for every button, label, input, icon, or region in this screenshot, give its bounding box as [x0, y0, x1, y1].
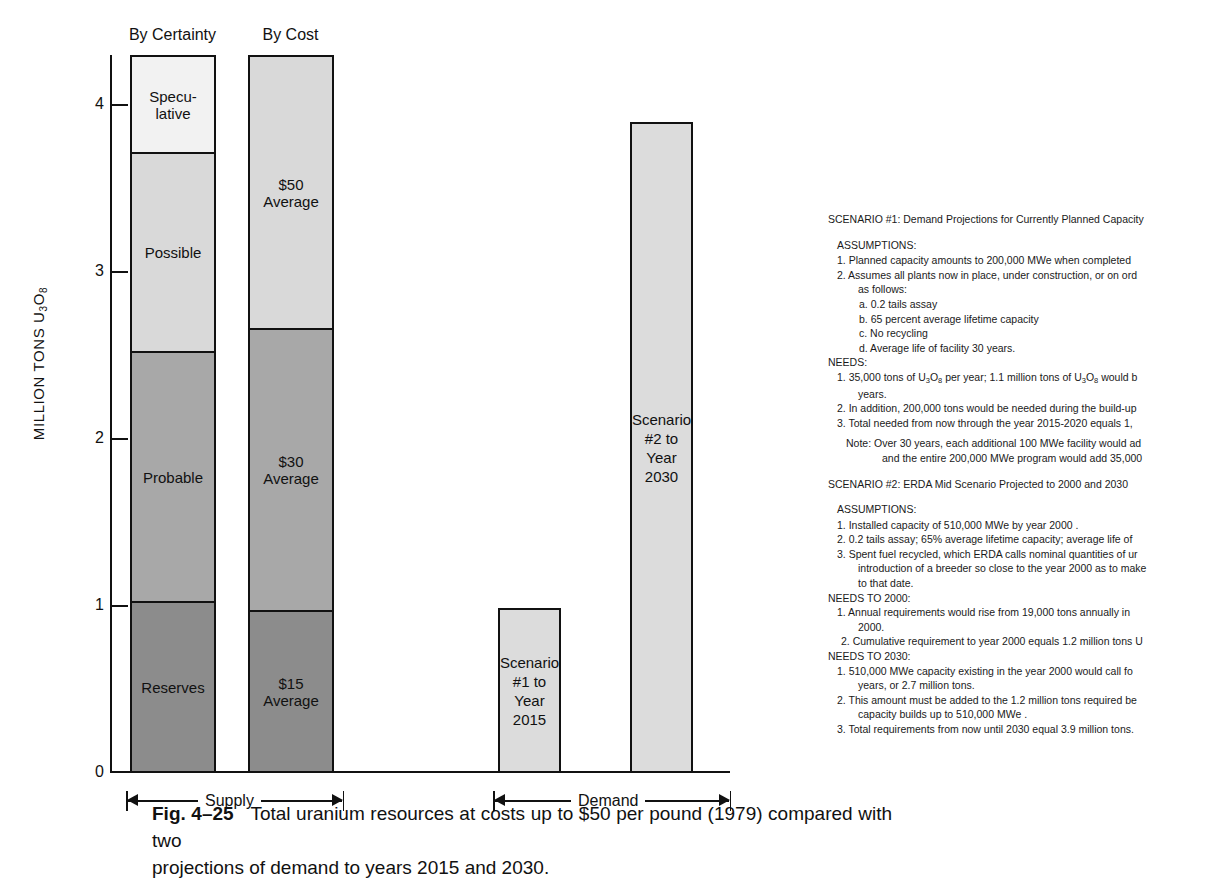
- y-tick-label-4: 4: [76, 96, 104, 112]
- y-tick-label-3: 3: [76, 263, 104, 279]
- bar-segment-cost-15[interactable]: $15 Average: [250, 610, 332, 771]
- y-tick-mark-1: [112, 605, 128, 607]
- scenario-1-assumption-2-cont: as follows:: [828, 282, 1225, 297]
- bar-segment-cost-50-label: $50 Average: [263, 176, 319, 210]
- scenario-1-need-1-cont: years.: [828, 387, 1225, 402]
- scenario-1-assumptions: ASSUMPTIONS:: [828, 238, 1225, 253]
- scenario-2-need-2030-3: 3. Total requirements from now until 203…: [828, 722, 1225, 737]
- bar-segment-speculative-label: Specu- lative: [149, 88, 197, 122]
- scenario-1-need-2: 2. In addition, 200,000 tons would be ne…: [828, 401, 1225, 416]
- scenario-1-needs-header: NEEDS:: [828, 355, 1225, 370]
- bar-segment-speculative[interactable]: Specu- lative: [132, 57, 214, 152]
- y-axis-sub-3: 3: [38, 305, 49, 311]
- scenario-2-assumption-3: 3. Spent fuel recycled, which ERDA calls…: [828, 547, 1225, 562]
- chart-plot-area: MILLION TONS U3O8 4 3 2 1 0 By Certainty…: [0, 0, 800, 800]
- scenario-1-assumption-2a: a. 0.2 tails assay: [828, 297, 1225, 312]
- y-tick-mark-3: [112, 271, 128, 273]
- scenario-2-assumption-3-cont2: to that date.: [828, 576, 1225, 591]
- scenario-2-need-2030-2: 2. This amount must be added to the 1.2 …: [828, 693, 1225, 708]
- scenario-notes-panel: SCENARIO #1: Demand Projections for Curr…: [828, 212, 1225, 737]
- bar-by-certainty[interactable]: Specu- lative Possible Probable Reserves: [130, 55, 216, 773]
- bar-scenario-2[interactable]: Scenario #2 to Year 2030: [630, 122, 693, 773]
- bar-segment-cost-50[interactable]: $50 Average: [250, 57, 332, 328]
- scenario-1-note: Note: Over 30 years, each additional 100…: [828, 436, 1225, 451]
- scenario-2-need-2030-2-cont: capacity builds up to 510,000 MWe .: [828, 707, 1225, 722]
- figure-caption: Fig. 4–25 Total uranium resources at cos…: [152, 800, 1212, 881]
- scenario-2-needs-2000-header: NEEDS TO 2000:: [828, 591, 1225, 606]
- bar-by-cost[interactable]: $50 Average $30 Average $15 Average: [248, 55, 334, 773]
- scenario-1-assumption-2b: b. 65 percent average lifetime capacity: [828, 312, 1225, 327]
- bar-segment-probable[interactable]: Probable: [132, 351, 214, 601]
- bar-segment-possible-label: Possible: [145, 244, 202, 261]
- y-tick-mark-2: [112, 438, 128, 440]
- bar-segment-possible[interactable]: Possible: [132, 152, 214, 351]
- figure-caption-line-2: projections of demand to years 2015 and …: [152, 854, 892, 881]
- y-tick-label-2: 2: [76, 430, 104, 446]
- bar-scenario-2-label: Scenario #2 to Year 2030: [632, 410, 691, 486]
- scenario-2-need-2030-1: 1. 510,000 MWe capacity existing in the …: [828, 664, 1225, 679]
- scenario-2-assumption-2: 2. 0.2 tails assay; 65% average lifetime…: [828, 532, 1225, 547]
- bar-scenario-1[interactable]: Scenario #1 to Year 2015: [498, 608, 561, 773]
- y-axis-sub-8: 8: [38, 287, 49, 293]
- column-header-by-certainty: By Certainty: [120, 26, 225, 44]
- y-axis-title-o: O: [30, 293, 47, 305]
- scenario-1-need-3: 3. Total needed from now through the yea…: [828, 416, 1225, 431]
- scenario-1-need-1: 1. 35,000 tons of U3O8 per year; 1.1 mil…: [828, 370, 1225, 387]
- scenario-1-assumption-1: 1. Planned capacity amounts to 200,000 M…: [828, 253, 1225, 268]
- scenario-2-assumptions: ASSUMPTIONS:: [828, 502, 1225, 517]
- scenario-1-header: SCENARIO #1: Demand Projections for Curr…: [828, 212, 1225, 227]
- y-tick-label-0: 0: [76, 764, 104, 780]
- y-tick-label-1: 1: [76, 597, 104, 613]
- scenario-2-assumption-3-cont: introduction of a breeder so close to th…: [828, 561, 1225, 576]
- y-tick-mark-4: [112, 104, 128, 106]
- scenario-1-assumption-2c: c. No recycling: [828, 326, 1225, 341]
- bar-segment-reserves-label: Reserves: [141, 679, 204, 696]
- scenario-1-note-cont: and the entire 200,000 MWe program would…: [828, 451, 1225, 466]
- scenario-2-needs-2030-header: NEEDS TO 2030:: [828, 649, 1225, 664]
- scenario-2-need-2000-1: 1. Annual requirements would rise from 1…: [828, 605, 1225, 620]
- scenario-2-header: SCENARIO #2: ERDA Mid Scenario Projected…: [828, 477, 1225, 492]
- y-axis-title: MILLION TONS U3O8: [30, 234, 47, 494]
- column-header-by-cost: By Cost: [238, 26, 343, 44]
- scenario-2-need-2030-1-cont: years, or 2.7 million tons.: [828, 678, 1225, 693]
- scenario-2-need-2000-1-cont: 2000.: [828, 620, 1225, 635]
- scenario-1-assumption-2: 2. Assumes all plants now in place, unde…: [828, 268, 1225, 283]
- bar-scenario-1-label: Scenario #1 to Year 2015: [500, 653, 559, 729]
- y-axis-title-text: MILLION TONS U: [30, 311, 47, 440]
- figure-caption-line-1: Total uranium resources at costs up to $…: [152, 803, 892, 851]
- bar-segment-cost-30-label: $30 Average: [263, 453, 319, 487]
- y-axis-line: [110, 55, 112, 773]
- scenario-1-assumption-2d: d. Average life of facility 30 years.: [828, 341, 1225, 356]
- bar-segment-probable-label: Probable: [143, 469, 203, 486]
- scenario-2-need-2000-2: 2. Cumulative requirement to year 2000 e…: [828, 634, 1225, 649]
- bar-segment-cost-30[interactable]: $30 Average: [250, 328, 332, 610]
- figure-number: Fig. 4–25: [152, 803, 234, 824]
- bar-segment-cost-15-label: $15 Average: [263, 675, 319, 709]
- bar-segment-reserves[interactable]: Reserves: [132, 601, 214, 771]
- scenario-2-assumption-1: 1. Installed capacity of 510,000 MWe by …: [828, 518, 1225, 533]
